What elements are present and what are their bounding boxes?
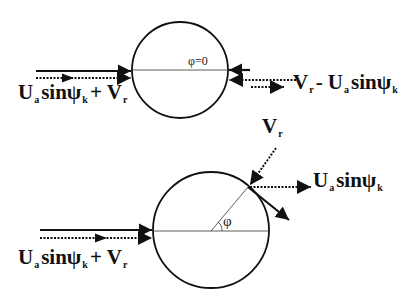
vr-dotted-arrow: [250, 148, 276, 185]
label-part: - U: [316, 70, 343, 94]
top-left-label: Uasinψk+ Vr: [18, 82, 129, 103]
label-subscript: r: [123, 259, 127, 270]
label-part: V: [293, 70, 308, 94]
label-subscript: a: [34, 94, 39, 105]
angle-arc: [218, 222, 222, 231]
label-subscript: k: [392, 84, 398, 95]
label-subscript: a: [329, 182, 334, 193]
tangent-solid-arrow: [248, 187, 289, 220]
label-subscript: r: [123, 94, 127, 105]
label-part: + V: [90, 80, 122, 104]
label-part: sinψ: [351, 70, 391, 94]
label-subscript: a: [34, 259, 39, 270]
label-part: sinψ: [336, 168, 376, 192]
label-part: U: [313, 168, 328, 192]
bottom-top-label: Vr: [262, 116, 285, 137]
label-subscript: r: [309, 84, 313, 95]
label-subscript: k: [82, 94, 88, 105]
top-right-label: Vr- Uasinψk: [293, 72, 400, 93]
label-part: V: [262, 114, 277, 138]
label-part: sinψ: [41, 245, 81, 269]
label-subscript: k: [82, 259, 88, 270]
label-part: U: [18, 80, 33, 104]
label-part: + V: [90, 245, 122, 269]
bottom-right-label: Uasinψk: [313, 170, 385, 191]
label-part: U: [18, 245, 33, 269]
bottom-angle-label: φ: [223, 214, 232, 229]
label-subscript: a: [344, 84, 349, 95]
bottom-left-mid-arrowhead-icon: [95, 234, 107, 243]
bottom-left-label: Uasinψk+ Vr: [18, 247, 129, 268]
label-subscript: k: [377, 182, 383, 193]
top-angle-label: φ=0: [188, 55, 208, 67]
label-part: sinψ: [41, 80, 81, 104]
label-subscript: r: [278, 128, 282, 139]
